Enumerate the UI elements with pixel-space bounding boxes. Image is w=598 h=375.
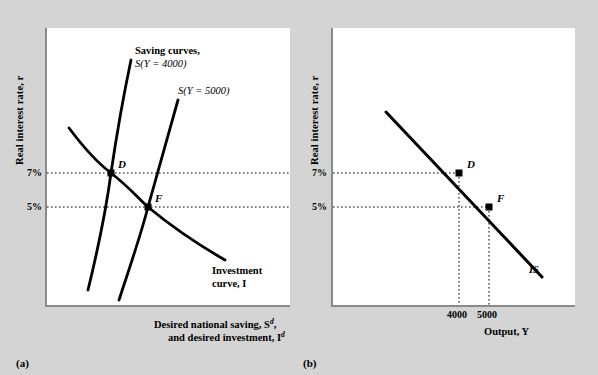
panel-b-tick-7-percent: 7%: [303, 167, 327, 178]
panel-a: Real interest rate, r D F Sa: [0, 0, 299, 375]
is-curve-label: IS: [529, 263, 539, 277]
panel-a-tick-5-percent: 5%: [18, 201, 42, 212]
panel-a-x-axis-label-line2-text: and desired investment, I: [168, 332, 281, 343]
panel-a-x-axis-label-line1: Desired national saving, Sd,: [154, 319, 276, 330]
equilibrium-point-f: [145, 204, 152, 211]
panel-a-y-axis-label: Real interest rate, r: [14, 76, 25, 165]
panel-b-point-label-f: F: [497, 192, 504, 204]
investment-curve: [69, 128, 225, 260]
panel-a-x-axis-label-line2: and desired investment, Id: [168, 331, 285, 344]
investment-curve-label-line2: curve, I: [212, 277, 246, 291]
panel-a-x-axis-label-line2-sup: d: [281, 330, 285, 339]
saving-curve-5000: [119, 100, 178, 300]
panel-a-caption: (a): [16, 357, 29, 369]
saving-curve-4000-label: S(Y = 4000): [135, 57, 186, 71]
panel-b-tick-5000: 5000: [467, 309, 507, 320]
panel-b-point-label-d: D: [467, 158, 475, 170]
equilibrium-point-f: [486, 204, 493, 211]
panel-a-x-axis-label-line1-comma: ,: [274, 319, 277, 330]
panel-a-plot-area: D F Saving curves, S(Y = 4000) S(Y = 500…: [45, 28, 290, 307]
panel-b-plot-area: D F IS: [331, 28, 575, 307]
saving-curves-title-label: Saving curves,: [135, 44, 200, 58]
investment-curve-label-line1: Investment: [212, 264, 262, 278]
panel-a-point-label-f: F: [155, 192, 162, 204]
panel-b-tick-5-percent: 5%: [303, 201, 327, 212]
investment-curve-label-line2-text: curve, I: [212, 278, 246, 289]
panel-a-point-label-d: D: [118, 158, 126, 170]
saving-curve-5000-label: S(Y = 5000): [178, 84, 229, 98]
panel-b-x-axis-label: Output, Y: [484, 325, 529, 338]
is-curve: [386, 112, 542, 277]
panel-b-y-axis-label: Real interest rate, r: [309, 76, 320, 165]
panel-b-caption: (b): [303, 357, 316, 369]
economics-figure: Real interest rate, r D F Sa: [0, 0, 598, 375]
panel-b: Real interest rate, r D F IS: [299, 0, 598, 375]
panel-a-x-axis-label: Desired national saving, Sd, and desired…: [154, 318, 285, 344]
panel-a-tick-7-percent: 7%: [18, 167, 42, 178]
panel-a-x-axis-label-line1-text: Desired national saving, S: [154, 319, 270, 330]
equilibrium-point-d: [108, 170, 115, 177]
equilibrium-point-d: [456, 170, 463, 177]
